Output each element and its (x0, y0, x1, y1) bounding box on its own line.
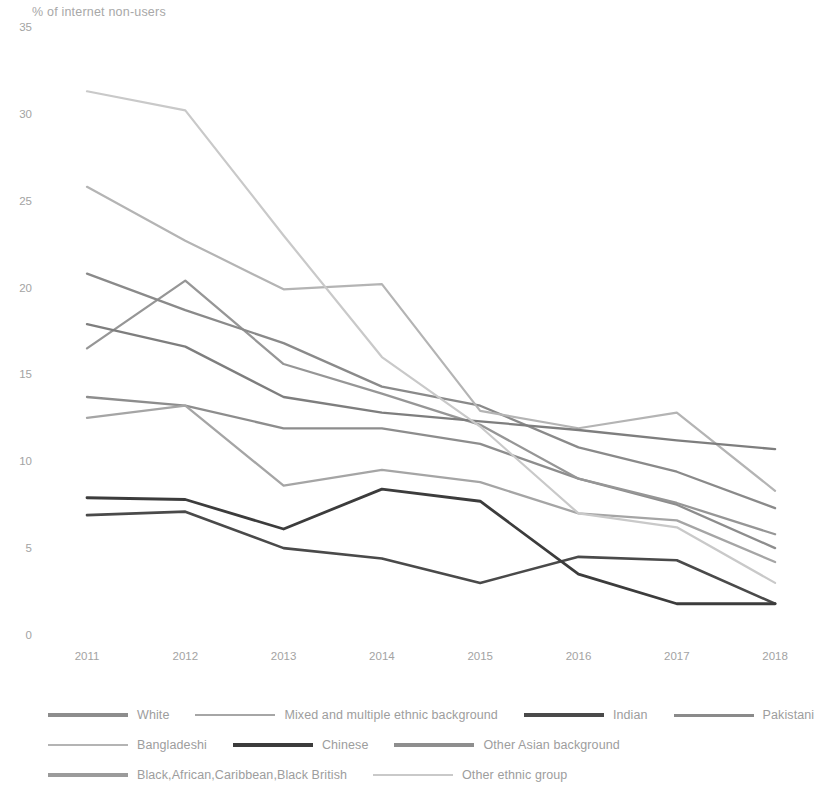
series-line (87, 397, 775, 548)
y-axis-tick: 0 (2, 629, 32, 641)
legend-swatch-line-icon (524, 713, 604, 717)
legend-swatch-line-icon (233, 743, 313, 747)
legend-item[interactable]: Bangladeshi (48, 738, 207, 752)
legend-label: Black,African,Caribbean,Black British (137, 768, 347, 782)
legend-label: Bangladeshi (137, 738, 207, 752)
line-chart-svg (0, 0, 831, 660)
series-line (87, 406, 775, 562)
legend-swatch-line-icon (48, 773, 128, 776)
x-axis-tick: 2014 (347, 650, 417, 662)
y-axis-tick: 20 (2, 282, 32, 294)
plot-area: 05101520253035 2011201220132014201520162… (0, 0, 831, 660)
legend-label: Chinese (322, 738, 369, 752)
chart-legend: WhiteMixed and multiple ethnic backgroun… (0, 700, 831, 788)
legend-item[interactable]: Black,African,Caribbean,Black British (48, 768, 347, 782)
legend-label: Other ethnic group (462, 768, 567, 782)
legend-item[interactable]: Other Asian background (394, 738, 619, 752)
legend-swatch-line-icon (394, 743, 474, 746)
x-axis-tick: 2016 (544, 650, 614, 662)
legend-label: White (137, 708, 169, 722)
y-axis-tick: 5 (2, 542, 32, 554)
legend-label: Other Asian background (483, 738, 619, 752)
chart-root: % of internet non-users 05101520253035 2… (0, 0, 831, 788)
legend-label: Pakistani (763, 708, 815, 722)
legend-item[interactable]: Other ethnic group (373, 768, 567, 782)
x-axis-tick: 2015 (445, 650, 515, 662)
legend-item[interactable]: White (48, 708, 169, 722)
legend-swatch-line-icon (674, 714, 754, 717)
legend-item[interactable]: Pakistani (674, 708, 815, 722)
x-axis-tick: 2013 (249, 650, 319, 662)
legend-row: BangladeshiChineseOther Asian background (48, 732, 620, 758)
x-axis-tick: 2012 (150, 650, 220, 662)
legend-swatch-line-icon (195, 714, 275, 717)
legend-row: WhiteMixed and multiple ethnic backgroun… (48, 702, 814, 728)
y-axis-tick: 25 (2, 195, 32, 207)
x-axis-tick: 2017 (642, 650, 712, 662)
y-axis-tick: 15 (2, 368, 32, 380)
legend-swatch-line-icon (373, 774, 453, 777)
legend-item[interactable]: Chinese (233, 738, 369, 752)
series-line (87, 512, 775, 604)
legend-item[interactable]: Mixed and multiple ethnic background (195, 708, 497, 722)
legend-row: Black,African,Caribbean,Black BritishOth… (48, 762, 567, 788)
series-line (87, 91, 775, 583)
series-line (87, 489, 775, 604)
legend-swatch-line-icon (48, 744, 128, 747)
y-axis-tick: 35 (2, 21, 32, 33)
legend-label: Indian (613, 708, 648, 722)
legend-item[interactable]: Indian (524, 708, 648, 722)
series-line (87, 324, 775, 449)
y-axis-tick: 30 (2, 108, 32, 120)
legend-swatch-line-icon (48, 713, 128, 716)
legend-label: Mixed and multiple ethnic background (284, 708, 497, 722)
x-axis-tick: 2011 (52, 650, 122, 662)
y-axis-tick: 10 (2, 455, 32, 467)
x-axis-tick: 2018 (740, 650, 810, 662)
series-line (87, 187, 775, 491)
